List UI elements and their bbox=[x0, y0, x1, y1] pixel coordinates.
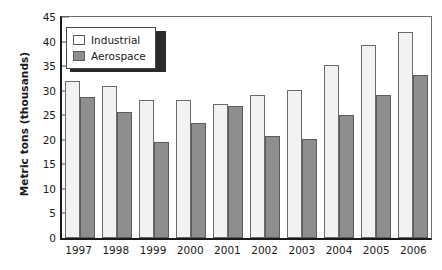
x-tick-label: 2005 bbox=[358, 244, 395, 256]
x-tick-label: 2001 bbox=[209, 244, 246, 256]
bar-aerospace-1997 bbox=[80, 97, 95, 238]
bar-industrial-1998 bbox=[102, 86, 117, 238]
y-tick-label: 5 bbox=[24, 207, 56, 219]
bar-industrial-2004 bbox=[324, 65, 339, 238]
bar-aerospace-2002 bbox=[265, 136, 280, 238]
y-tick-label: 30 bbox=[24, 85, 56, 97]
legend-item-industrial: Industrial bbox=[73, 32, 146, 48]
x-tick-label: 2000 bbox=[172, 244, 209, 256]
bar-group bbox=[173, 17, 210, 238]
x-tick-label: 2003 bbox=[283, 244, 320, 256]
bar-aerospace-2005 bbox=[376, 95, 391, 238]
bar-industrial-1997 bbox=[65, 81, 80, 238]
y-tick-label: 25 bbox=[24, 109, 56, 121]
bar-group bbox=[357, 17, 394, 238]
x-tick-label: 2006 bbox=[395, 244, 432, 256]
x-tick-label: 1999 bbox=[134, 244, 171, 256]
y-tick-label: 0 bbox=[24, 232, 56, 244]
y-tick-label: 20 bbox=[24, 134, 56, 146]
bar-aerospace-2006 bbox=[413, 75, 428, 238]
bar-group bbox=[320, 17, 357, 238]
bar-aerospace-2001 bbox=[228, 106, 243, 238]
bar-industrial-2005 bbox=[361, 45, 376, 238]
legend-swatch-aerospace-icon bbox=[73, 51, 85, 61]
legend-label-industrial: Industrial bbox=[91, 34, 140, 46]
legend-item-aerospace: Aerospace bbox=[73, 48, 146, 64]
bar-aerospace-1998 bbox=[117, 112, 132, 238]
legend-label-aerospace: Aerospace bbox=[91, 50, 146, 62]
bar-group bbox=[283, 17, 320, 238]
bar-industrial-2000 bbox=[176, 100, 191, 238]
y-tick-label: 35 bbox=[24, 60, 56, 72]
bar-aerospace-2003 bbox=[302, 139, 317, 238]
x-axis-labels: 1997199819992000200120022003200420052006 bbox=[60, 244, 432, 256]
bar-industrial-2003 bbox=[287, 90, 302, 238]
legend-swatch-industrial-icon bbox=[73, 35, 85, 45]
x-tick-label: 1997 bbox=[60, 244, 97, 256]
bar-chart: Metric tons (thousands) 0510152025303540… bbox=[0, 0, 442, 270]
bar-aerospace-2004 bbox=[339, 115, 354, 238]
y-tick-label: 10 bbox=[24, 183, 56, 195]
bar-industrial-2006 bbox=[398, 32, 413, 238]
bar-industrial-2002 bbox=[250, 95, 265, 238]
x-tick-label: 2002 bbox=[246, 244, 283, 256]
y-tick-label: 45 bbox=[24, 11, 56, 23]
chart-legend: Industrial Aerospace bbox=[66, 27, 156, 69]
y-tick-label: 40 bbox=[24, 36, 56, 48]
bar-aerospace-1999 bbox=[154, 142, 169, 238]
x-tick-label: 2004 bbox=[320, 244, 357, 256]
bar-aerospace-2000 bbox=[191, 123, 206, 238]
bar-group bbox=[247, 17, 284, 238]
bar-industrial-1999 bbox=[139, 100, 154, 238]
bar-industrial-2001 bbox=[213, 104, 228, 238]
y-tick-label: 15 bbox=[24, 158, 56, 170]
bar-group bbox=[210, 17, 247, 238]
x-tick-label: 1998 bbox=[97, 244, 134, 256]
bar-group bbox=[394, 17, 431, 238]
